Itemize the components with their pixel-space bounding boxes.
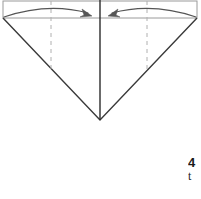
fold-arrow-right — [108, 8, 196, 17]
caption: 4 t — [188, 156, 201, 184]
caption-text: t — [188, 170, 201, 184]
folding-diagram — [0, 0, 201, 199]
diagram-canvas: 4 t — [0, 0, 201, 199]
fold-arrow-left — [4, 8, 92, 17]
arrowhead-left — [80, 9, 92, 17]
arrowhead-right — [108, 9, 120, 17]
caption-step-number: 4 — [188, 156, 201, 170]
